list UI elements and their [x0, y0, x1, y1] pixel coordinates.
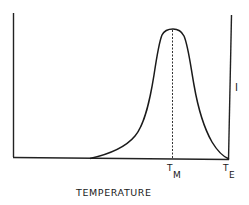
peak-curve: [90, 29, 229, 159]
te-label-sub: E: [229, 170, 235, 180]
tm-label-main: T: [166, 163, 173, 173]
tm-label-sub: M: [173, 170, 181, 180]
te-label-main: T: [222, 163, 229, 173]
y-axis-label: I: [235, 82, 238, 93]
peak-diagram: I T M T E TEMPERATURE: [0, 0, 249, 205]
bottom-axis: [13, 158, 229, 160]
right-axis: [229, 15, 232, 160]
x-axis-title: TEMPERATURE: [75, 187, 152, 198]
